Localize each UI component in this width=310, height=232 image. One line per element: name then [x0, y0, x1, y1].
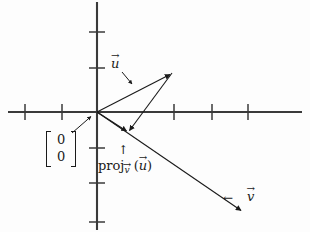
projection-subscript-overarrow-icon: →: [123, 160, 131, 170]
vector-v-label: → v: [247, 190, 254, 203]
projection-pointer-arrow-icon: ↑: [118, 144, 128, 156]
projection-label: proj→v (→u): [98, 159, 152, 172]
diagram-canvas: [0, 0, 310, 232]
matrix-cell-row1: 0: [57, 133, 65, 148]
matrix-left-bracket: [46, 131, 52, 167]
matrix-cell-row2: 0: [57, 150, 65, 165]
vector-u: [97, 75, 170, 113]
u-overarrow-icon: →: [111, 51, 119, 61]
u-label-pointer-arrow: [122, 72, 132, 84]
projection-argument: →u: [139, 158, 147, 173]
matrix-cells: 0 0: [52, 131, 70, 167]
vector-projection: [97, 112, 127, 131]
projection-subscript: →v: [124, 165, 129, 175]
matrix-right-bracket: [70, 131, 76, 167]
projection-close-paren: ): [147, 158, 152, 173]
vector-projection-figure: → u ← → v 0 0 ↑ proj→v (→u): [0, 0, 310, 232]
v-pointer-arrow-icon: ←: [223, 192, 233, 204]
vector-u-label: → u: [111, 57, 119, 70]
projection-argument-overarrow-icon: →: [139, 153, 147, 163]
projection-head-text: proj: [98, 158, 124, 173]
origin-zero-matrix: 0 0: [46, 131, 76, 167]
v-overarrow-icon: →: [247, 184, 255, 194]
x-axis: [8, 104, 302, 120]
perpendicular-drop-line: [130, 73, 173, 131]
